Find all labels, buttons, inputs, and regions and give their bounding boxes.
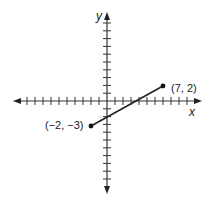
x-axis-right-arrow-icon: [194, 98, 202, 104]
endpoint-start: [89, 124, 94, 129]
endpoint-end: [161, 84, 166, 89]
x-axis-label: x: [188, 105, 196, 119]
endpoint-start-label: (−2, −3): [45, 119, 84, 131]
y-axis-label: y: [95, 9, 103, 23]
line-segment: [91, 86, 163, 126]
y-axis-down-arrow-icon: [104, 186, 110, 194]
endpoint-end-label: (7, 2): [171, 82, 197, 94]
x-axis-left-arrow-icon: [13, 98, 21, 104]
y-axis-up-arrow-icon: [104, 12, 110, 20]
coordinate-plane: y x (7, 2) (−2, −3): [0, 0, 209, 203]
